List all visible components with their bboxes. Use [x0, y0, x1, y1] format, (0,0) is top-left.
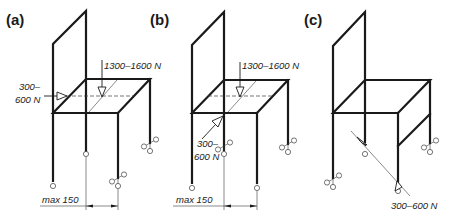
- load-label-diagonal-b-line1: 300–: [197, 138, 219, 149]
- dimension-label-a: max 150: [42, 194, 79, 205]
- load-label-horizontal-a-line1: 300–: [19, 81, 41, 92]
- chair-c-feet: [324, 138, 438, 194]
- dimension-label-b: max 150: [176, 194, 213, 205]
- foot-icon: [50, 183, 55, 188]
- load-label-diagonal-b-line2: 600 N: [194, 151, 219, 162]
- chair-load-diagram: (a) 1300–1600 N: [0, 0, 454, 219]
- panel-b: (b) 1300–1600 N 300– 600 N: [150, 11, 299, 210]
- panel-a-label: (a): [6, 11, 24, 28]
- load-label-vertical-a: 1300–1600 N: [104, 60, 161, 71]
- foot-icon: [362, 151, 367, 156]
- foot-icon: [189, 185, 194, 190]
- load-label-vertical-b: 1300–1600 N: [242, 60, 299, 71]
- panel-b-label: (b): [150, 11, 169, 28]
- panel-c-label: (c): [304, 11, 322, 28]
- chair-a-feet: [50, 137, 158, 189]
- foot-icon: [254, 185, 259, 190]
- chair-c-frame: [333, 12, 430, 183]
- load-arrow-diagonal-c: [351, 131, 410, 196]
- foot-icon: [83, 151, 88, 156]
- load-arrow-horizontal-a: [44, 92, 67, 100]
- panel-c: (c) 300–600 N: [304, 11, 439, 211]
- load-arrow-diagonal-b: [202, 116, 223, 139]
- load-label-horizontal-a-line2: 600 N: [15, 94, 40, 105]
- load-label-diagonal-c: 300–600 N: [391, 200, 438, 211]
- panel-a: (a) 1300–1600 N: [6, 11, 161, 210]
